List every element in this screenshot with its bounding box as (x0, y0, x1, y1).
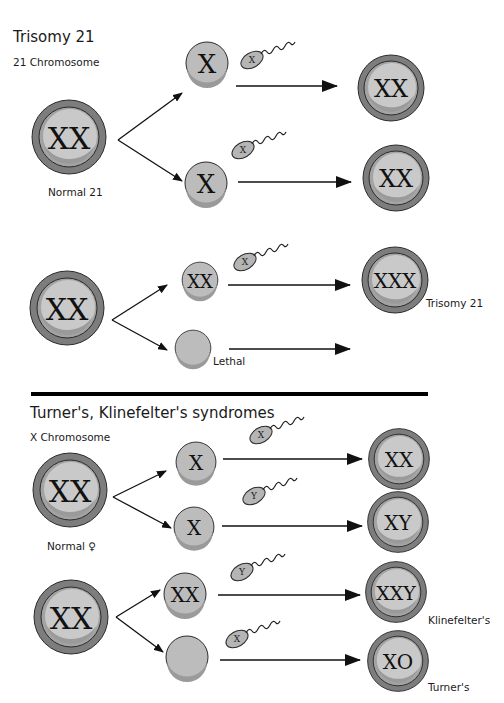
chromosome-label: XX (49, 474, 92, 509)
nondisjunction-diagram: Trisomy 21 21 Chromosome XX Normal 21 X … (0, 0, 504, 703)
section-divider (31, 392, 428, 396)
chromosome-label: XX (374, 75, 408, 103)
chromosome-label: X (187, 516, 202, 540)
gamete-cell: X (176, 442, 216, 486)
zygote-cell: XXY (366, 562, 427, 623)
chromosome-label: XX (50, 601, 93, 636)
chromosome-label: XO (383, 650, 413, 674)
sperm-chromosome: X (249, 55, 256, 65)
gamete-cell: XX (182, 262, 218, 301)
zygote-cell: XXX (362, 247, 428, 313)
sperm-icon: X (229, 132, 286, 162)
parent-cell: XX (34, 580, 108, 654)
arrow-right-icon (112, 285, 167, 320)
sperm-chromosome: Y (238, 567, 246, 577)
arrow-right-icon (118, 140, 182, 181)
sperm-icon: Y (228, 554, 285, 584)
sperm-chromosome: X (258, 430, 265, 440)
cell-circle-icon (175, 330, 211, 369)
sperm-icon: X (238, 42, 295, 72)
chromosome-label: XX (171, 583, 200, 607)
section-title-turner-klinefelter: Turner's, Klinefelter's syndromes (29, 404, 275, 422)
chromosome-label: XXX (374, 269, 417, 293)
arrow-right-icon (116, 590, 160, 617)
chromosome-label: XXY (376, 582, 416, 604)
chromosome-label: X (189, 451, 204, 475)
gamete-cell: XX (164, 573, 206, 619)
sperm-chromosome: X (242, 257, 249, 267)
arrow-right-icon (118, 93, 182, 140)
chromosome-label: XX (46, 292, 89, 327)
arrow-right-icon (116, 617, 163, 652)
chromosome-label: X (197, 169, 216, 199)
parent-caption: Normal ♀ (47, 540, 96, 552)
zygote-cell: XY (368, 492, 429, 553)
parent-caption: Normal 21 (48, 186, 103, 198)
arrow-right-icon (113, 471, 166, 497)
zygote-cell: XX (363, 145, 429, 211)
chromosome-label: XX (379, 165, 413, 193)
gamete-cell: X (174, 507, 214, 551)
arrow-right-icon (112, 320, 167, 350)
zygote-cell: XX (358, 55, 424, 121)
chromosome-label: X (198, 49, 217, 79)
parent-cell: XX (30, 271, 104, 345)
parent-cell: XX (32, 100, 106, 174)
gamete-cell-empty (166, 636, 208, 682)
parent-cell: XX (33, 453, 107, 527)
sperm-icon: X (231, 244, 288, 274)
result-caption: Trisomy 21 (425, 297, 483, 309)
chromosome-label: XX (48, 121, 91, 156)
cell-circle-icon (166, 636, 208, 682)
chromosome-label: XY (384, 511, 412, 535)
chromosome-label: XX (385, 448, 414, 472)
section-title-trisomy-21: Trisomy 21 (12, 28, 95, 46)
zygote-cell: XO (368, 631, 429, 692)
gamete-cell: X (185, 162, 227, 208)
arrow-right-icon (113, 497, 171, 528)
zygote-cell: XX (369, 429, 430, 490)
section-subtitle: X Chromosome (30, 431, 110, 443)
gamete-cell-empty (175, 330, 211, 369)
sperm-chromosome: X (234, 634, 241, 644)
chromosome-label: XX (187, 271, 213, 292)
sperm-icon: Y (240, 478, 297, 508)
sperm-chromosome: X (240, 145, 247, 155)
result-caption: Klinefelter's (428, 614, 490, 626)
gamete-cell: X (186, 42, 228, 88)
sperm-chromosome: Y (250, 491, 258, 501)
sperm-icon: X (223, 621, 280, 651)
result-caption: Turner's (427, 681, 469, 693)
section-subtitle: 21 Chromosome (13, 56, 99, 68)
gamete-caption: Lethal (213, 355, 245, 367)
